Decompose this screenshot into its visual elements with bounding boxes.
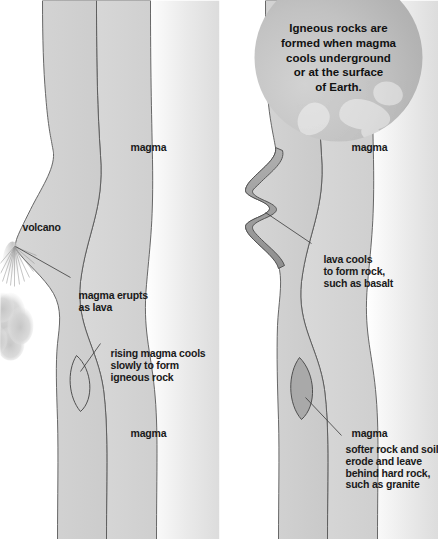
label-magma-erupts-as-lava: magma erupts as lava bbox=[78, 289, 147, 313]
globe-callout-text: Igneous rocks are formed when magma cool… bbox=[254, 0, 422, 141]
label-magma-left-bottom: magma bbox=[351, 427, 387, 439]
diagram-canvas: volcano magma erupts as lava rising magm… bbox=[0, 0, 438, 539]
panel-top-artwork bbox=[0, 0, 219, 539]
label-softer-rock-granite: softer rock and soil erode and leave beh… bbox=[345, 443, 438, 490]
label-rising-magma-cools: rising magma cools slowly to form igneou… bbox=[110, 347, 205, 382]
panel-top-volcano-cross-section: volcano magma erupts as lava rising magm… bbox=[0, 0, 219, 539]
label-volcano: volcano bbox=[22, 221, 60, 233]
label-magma-right-top: magma bbox=[130, 141, 166, 153]
diagram-stage: volcano magma erupts as lava rising magm… bbox=[0, 0, 438, 539]
globe-callout: Igneous rocks are formed when magma cool… bbox=[254, 0, 422, 141]
label-magma-right-bottom: magma bbox=[351, 141, 387, 153]
label-lava-cools-basalt: lava cools to form rock, such as basalt bbox=[323, 253, 393, 288]
label-magma-left-top: magma bbox=[130, 427, 166, 439]
